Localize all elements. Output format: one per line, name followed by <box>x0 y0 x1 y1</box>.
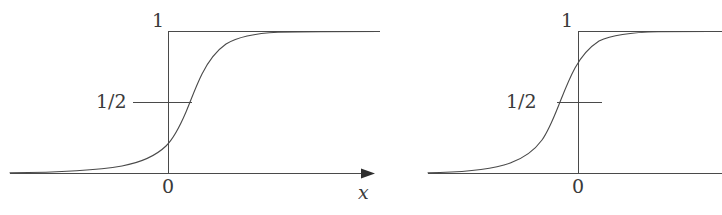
left-x-axis-label: x <box>358 183 369 202</box>
figure-container: 1 1/2 0 x 1 1/2 0 <box>0 0 722 215</box>
left-y-top-label: 1 <box>152 11 164 30</box>
right-y-top-label: 1 <box>561 11 573 30</box>
right-origin-label: 0 <box>572 177 584 196</box>
right-panel-plot <box>380 0 722 215</box>
panel-right-sigmoid: 1 1/2 0 <box>380 0 722 215</box>
left-x-axis-arrowhead <box>361 169 375 179</box>
left-y-half-label: 1/2 <box>96 92 127 111</box>
left-panel-plot <box>0 0 380 215</box>
panel-left-sigmoid: 1 1/2 0 x <box>0 0 380 215</box>
left-sigmoid-curve <box>10 32 380 173</box>
right-y-half-label: 1/2 <box>506 92 537 111</box>
left-origin-label: 0 <box>162 177 174 196</box>
